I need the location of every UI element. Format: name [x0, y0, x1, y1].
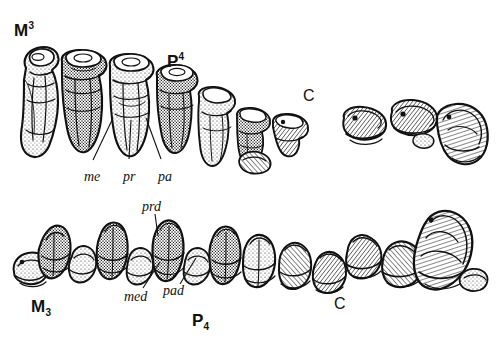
lower-tooth-p2 [279, 243, 311, 289]
label-upper-c: C [303, 88, 315, 104]
label-cusp-prd: prd [142, 200, 161, 214]
lower-tooth-p4 [209, 227, 241, 285]
lower-tooth-p1 [313, 252, 346, 293]
figure-plate: M3 P4 C me pr pa prd M3 med pad P4 C [0, 0, 501, 349]
label-upper-m3: M3 [14, 22, 34, 39]
label-lower-c: C [334, 296, 346, 312]
label-lower-p4: P4 [192, 312, 209, 329]
upper-tooth-canine-root [413, 134, 434, 148]
label-cusp-pad: pad [163, 284, 184, 298]
label-cusp-pa: pa [158, 170, 172, 184]
label-cusp-med: med [124, 290, 147, 304]
label-cusp-me: me [84, 170, 100, 184]
upper-tooth-small-a [239, 152, 270, 174]
label-cusp-pr: pr [123, 170, 135, 184]
label-upper-p4: P4 [167, 53, 184, 70]
lower-tooth-rg1 [346, 235, 381, 278]
label-lower-m3: M3 [31, 298, 51, 315]
lower-tooth-m2 [97, 223, 128, 280]
upper-tooth-rg2 [391, 100, 437, 135]
lower-tooth-p4a [184, 248, 210, 284]
lower-tooth-p3 [243, 235, 275, 287]
tooth-row-illustration [0, 0, 501, 349]
lower-tooth-canine-root [460, 269, 488, 291]
lower-tooth-m2a [69, 246, 96, 282]
